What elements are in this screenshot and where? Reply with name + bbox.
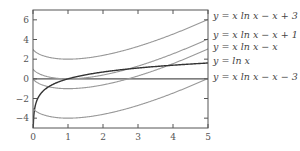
legend-label-2: y = x ln x − x [212, 41, 278, 52]
chart: 012345−4−20246 y = x ln x − x + 3y = x l… [0, 0, 300, 151]
series-line-0 [33, 19, 208, 59]
legend-label-4: y = x ln x − x − 3 [212, 71, 298, 82]
legend-label-1: y = x ln x − x + 1 [212, 29, 298, 40]
series-line-4 [33, 78, 208, 118]
x-tick-label: 0 [30, 132, 36, 142]
y-tick-label: 2 [23, 54, 29, 64]
x-tick-label: 3 [135, 132, 141, 142]
y-tick-label: −4 [16, 113, 30, 123]
y-tick-label: 0 [23, 74, 29, 84]
x-tick-label: 4 [170, 132, 176, 142]
x-tick-label: 1 [65, 132, 71, 142]
series-line-2 [33, 49, 208, 89]
y-tick-label: −2 [16, 94, 29, 104]
y-tick-label: 6 [23, 15, 29, 25]
y-tick-label: 4 [23, 35, 29, 45]
x-tick-label: 2 [100, 132, 106, 142]
legend-label-0: y = x ln x − x + 3 [212, 10, 298, 21]
plot-curves [33, 19, 208, 128]
x-tick-label: 5 [205, 132, 211, 142]
legend-label-3: y = ln x [212, 55, 251, 66]
legend-labels: y = x ln x − x + 3y = x ln x − x + 1y = … [212, 10, 298, 82]
